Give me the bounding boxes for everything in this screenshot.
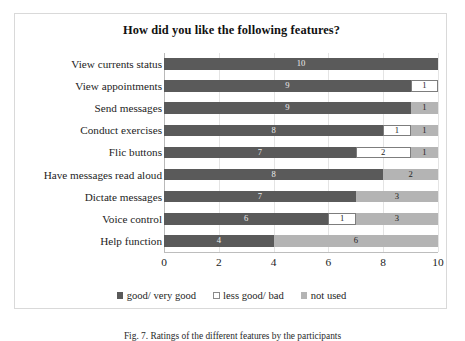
bar-row[interactable]: 91 <box>164 75 438 97</box>
bar-segment[interactable]: 2 <box>383 169 438 181</box>
bar-row[interactable]: 73 <box>164 186 438 208</box>
bar-segment[interactable]: 8 <box>164 125 383 137</box>
x-axis-tick-label: 8 <box>380 256 386 268</box>
y-axis-label: View currents status <box>0 53 162 75</box>
x-axis-tick-label: 10 <box>432 256 443 268</box>
legend-label: less good/ bad <box>223 290 284 301</box>
figure-caption: Fig. 7. Ratings of the different feature… <box>0 331 465 341</box>
bar-track: 73 <box>164 191 438 203</box>
y-axis-label: Voice control <box>0 208 162 230</box>
bar-row[interactable]: 613 <box>164 208 438 230</box>
bar-row[interactable]: 10 <box>164 53 438 75</box>
bar-track: 91 <box>164 80 438 92</box>
bar-segment[interactable]: 1 <box>411 147 438 159</box>
x-axis-tick-label: 4 <box>271 256 277 268</box>
bar-segment[interactable]: 1 <box>411 125 438 137</box>
chart-legend: good/ very goodless good/ badnot used <box>15 290 448 301</box>
x-axis-tick-label: 2 <box>216 256 222 268</box>
y-axis-label: Dictate messages <box>0 186 162 208</box>
chart-frame: How did you like the following features?… <box>14 13 447 309</box>
bar-segment[interactable]: 3 <box>356 213 438 225</box>
y-axis-label: Flic buttons <box>0 141 162 163</box>
y-axis-label: View appointments <box>0 75 162 97</box>
legend-swatch-icon <box>117 292 124 299</box>
bar-segment[interactable]: 7 <box>164 191 356 203</box>
bar-row[interactable]: 721 <box>164 141 438 163</box>
bar-track: 10 <box>164 58 438 70</box>
legend-item[interactable]: good/ very good <box>117 290 196 301</box>
bar-row[interactable]: 91 <box>164 97 438 119</box>
y-axis-label: Have messages read aloud <box>0 164 162 186</box>
legend-item[interactable]: not used <box>301 290 347 301</box>
bar-segment[interactable]: 6 <box>164 213 328 225</box>
bar-segment[interactable]: 2 <box>356 147 411 159</box>
x-axis-tick-label: 0 <box>161 256 167 268</box>
legend-item[interactable]: less good/ bad <box>213 290 284 301</box>
bar-segment[interactable]: 3 <box>356 191 438 203</box>
bar-track: 46 <box>164 235 438 247</box>
bar-segment[interactable]: 10 <box>164 58 438 70</box>
bar-track: 721 <box>164 147 438 159</box>
y-axis-label: Send messages <box>0 97 162 119</box>
bar-segment[interactable]: 1 <box>411 80 438 92</box>
y-axis-label: Help function <box>0 230 162 252</box>
bar-row[interactable]: 46 <box>164 230 438 252</box>
x-axis-line <box>164 252 438 253</box>
bar-segment[interactable]: 8 <box>164 169 383 181</box>
legend-label: good/ very good <box>127 290 196 301</box>
bar-segment[interactable]: 9 <box>164 80 411 92</box>
gridline <box>438 53 439 252</box>
bar-row[interactable]: 811 <box>164 119 438 141</box>
bar-segment[interactable]: 9 <box>164 102 411 114</box>
bar-segment[interactable]: 4 <box>164 235 274 247</box>
bar-track: 613 <box>164 213 438 225</box>
bar-segment[interactable]: 1 <box>411 102 438 114</box>
y-axis-label: Conduct exercises <box>0 119 162 141</box>
x-axis-tick-labels: 0246810 <box>164 256 438 272</box>
legend-label: not used <box>311 290 347 301</box>
bar-track: 91 <box>164 102 438 114</box>
bar-segment[interactable]: 1 <box>328 213 355 225</box>
bar-segment[interactable]: 7 <box>164 147 356 159</box>
bar-segment[interactable]: 6 <box>274 235 438 247</box>
legend-swatch-icon <box>301 292 308 299</box>
bar-track: 82 <box>164 169 438 181</box>
bar-segment[interactable]: 1 <box>383 125 410 137</box>
bar-track: 811 <box>164 125 438 137</box>
plot-area: 109191811721827361346 <box>164 53 438 252</box>
x-axis-tick-label: 6 <box>326 256 332 268</box>
chart-title: How did you like the following features? <box>15 23 448 38</box>
legend-swatch-icon <box>213 292 220 299</box>
bar-row[interactable]: 82 <box>164 164 438 186</box>
